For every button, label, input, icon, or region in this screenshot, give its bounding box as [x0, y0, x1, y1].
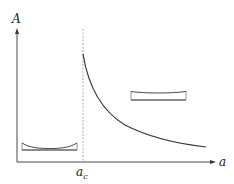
y-axis-arrow-icon — [15, 28, 19, 34]
diagram-canvas: A a ac — [0, 0, 234, 184]
critical-label-sub: c — [83, 172, 87, 181]
inset-right — [131, 91, 186, 101]
x-axis-label: a — [219, 156, 226, 168]
diagram-svg — [0, 0, 234, 184]
inset-left — [22, 143, 77, 151]
critical-value-label: ac — [76, 166, 88, 181]
y-axis-label: A — [12, 13, 21, 25]
x-axis-arrow-icon — [210, 160, 216, 164]
